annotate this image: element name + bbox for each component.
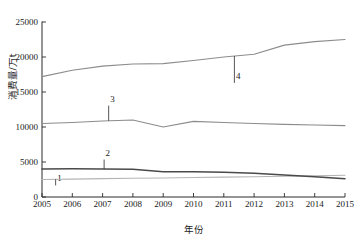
series-line-4 xyxy=(42,40,345,77)
series-line-3 xyxy=(42,120,345,127)
plot-canvas xyxy=(0,0,356,240)
axis-spines xyxy=(42,22,345,198)
line-chart-figure: 消费量/万t 0500010000150002000025000 2005200… xyxy=(0,0,356,240)
